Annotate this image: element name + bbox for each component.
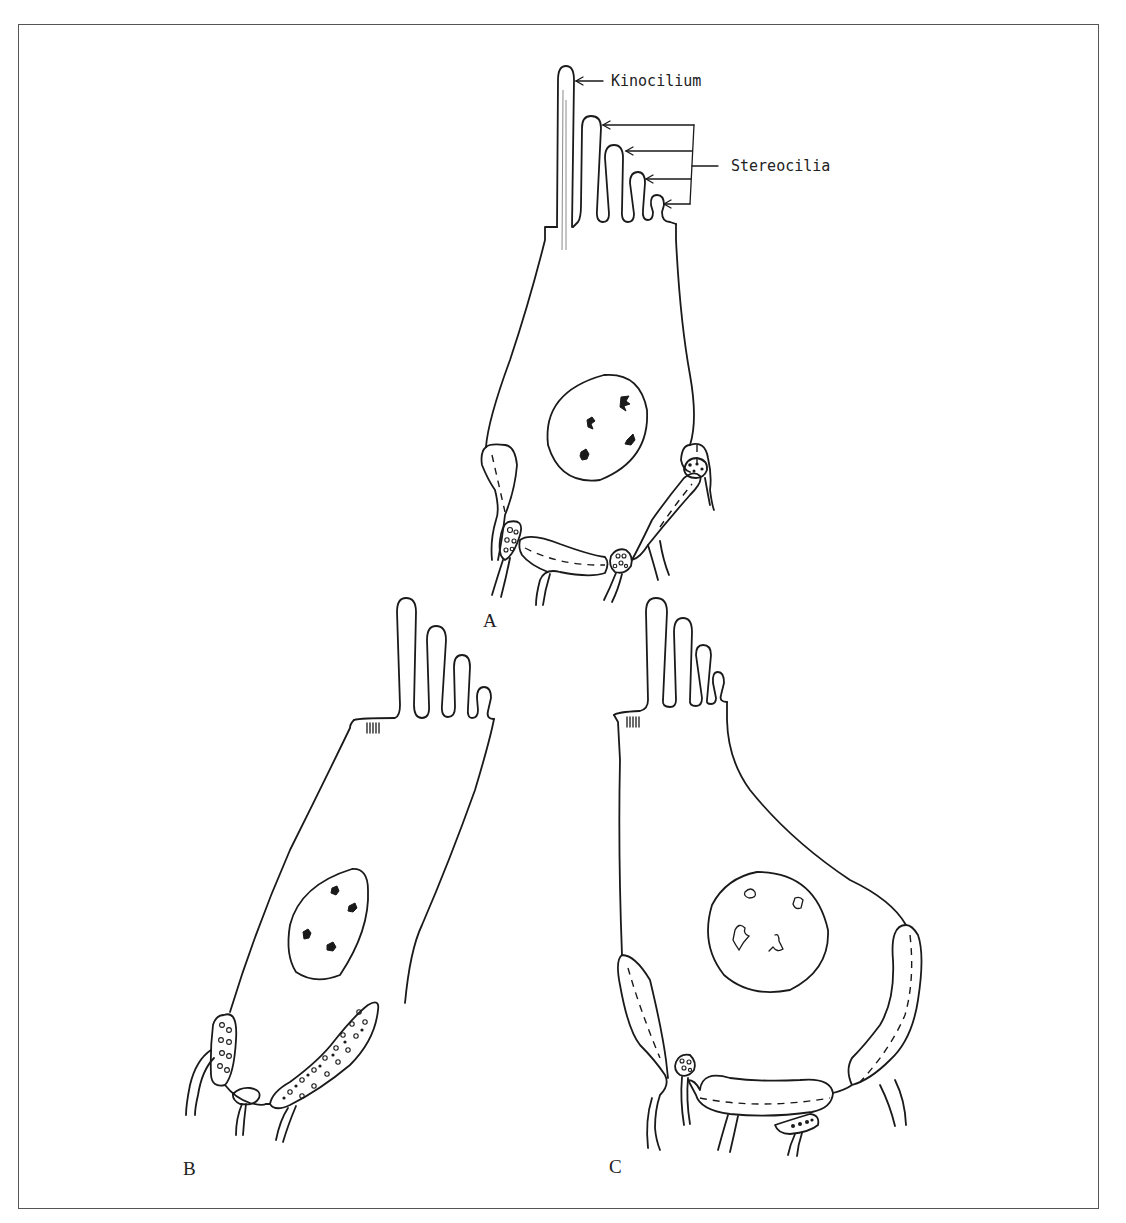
stereocilia-bundle-c — [614, 598, 727, 715]
stereocilia-label: Stereocilia — [731, 157, 830, 175]
panel-label-c: C — [609, 1156, 622, 1177]
panel-label-b: B — [183, 1158, 196, 1179]
vesicle-terminal-c-left — [675, 1055, 695, 1076]
vesicle-terminal-b-left — [211, 1014, 237, 1085]
nerve-fiber-c-bottom — [688, 1076, 833, 1116]
nucleus-a — [547, 375, 647, 481]
vesicle-cluster-c — [775, 1114, 818, 1134]
bouton-b — [225, 1085, 266, 1105]
stereocilia-bundle-a — [573, 116, 676, 227]
nerve-ending-a-left — [482, 447, 498, 560]
chromatin-c — [733, 889, 803, 951]
vesicle-terminal-b-right — [266, 1002, 378, 1108]
nerve-ending-c-right — [833, 925, 922, 1093]
stereocilia-bundle-b — [354, 598, 494, 720]
nucleus-c — [708, 872, 828, 992]
nerve-ending-c-left — [618, 955, 668, 1150]
hair-cell-diagram: A Kinocilium Stereocilia — [0, 0, 1126, 1223]
cell-body-a — [486, 224, 694, 447]
chromatin-b — [303, 886, 357, 951]
nerve-ending-a-right — [632, 473, 701, 560]
cell-b: B — [183, 598, 494, 1179]
nucleus-b — [288, 869, 368, 979]
stereocilia-annotation: Stereocilia — [603, 121, 830, 208]
kinocilium-label: Kinocilium — [611, 72, 701, 90]
chromatin-a — [580, 396, 635, 460]
cell-a: A Kinocilium Stereocilia — [482, 66, 831, 631]
vesicle-terminal-a-right — [684, 458, 707, 478]
nerve-fiber-a-bottom — [519, 537, 607, 605]
cell-body-b — [230, 719, 494, 1012]
cell-body-c — [614, 702, 906, 955]
kinocilium-annotation: Kinocilium — [576, 72, 701, 90]
cell-c: C — [609, 598, 922, 1177]
panel-label-a: A — [483, 610, 497, 631]
